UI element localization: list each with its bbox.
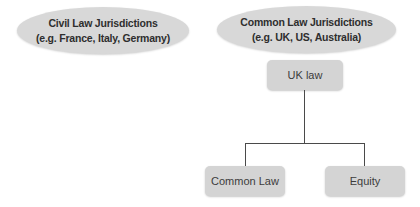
civil-law-examples: (e.g. France, Italy, Germany) bbox=[36, 31, 170, 46]
uk-law-label: UK law bbox=[288, 69, 323, 81]
common-law-node: Common Law bbox=[205, 166, 285, 196]
common-law-examples: (e.g. UK, US, Australia) bbox=[252, 30, 361, 45]
connector-branch-horizontal bbox=[245, 143, 365, 144]
connector-branch-to-equity bbox=[364, 143, 365, 166]
civil-law-title: Civil Law Jurisdictions bbox=[48, 16, 157, 31]
equity-node-label: Equity bbox=[350, 175, 381, 187]
common-law-title: Common Law Jurisdictions bbox=[240, 15, 372, 30]
equity-node: Equity bbox=[325, 166, 405, 196]
connector-ukLaw-to-branch bbox=[304, 90, 305, 143]
civil-law-jurisdictions-ellipse: Civil Law Jurisdictions (e.g. France, It… bbox=[17, 7, 189, 54]
common-law-node-label: Common Law bbox=[211, 175, 279, 187]
common-law-jurisdictions-ellipse: Common Law Jurisdictions (e.g. UK, US, A… bbox=[217, 6, 396, 53]
uk-law-node: UK law bbox=[267, 60, 343, 90]
legal-systems-diagram: Civil Law Jurisdictions (e.g. France, It… bbox=[0, 0, 420, 207]
connector-branch-to-commonLaw bbox=[245, 143, 246, 166]
